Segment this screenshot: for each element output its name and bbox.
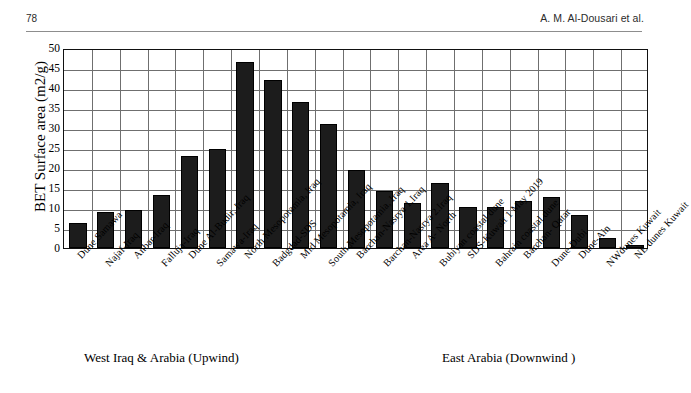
page-number: 78 [26, 13, 37, 24]
y-tick-label: 45 [49, 63, 61, 74]
group-caption-upwind: West Iraq & Arabia (Upwind) [84, 350, 239, 366]
x-axis-tick-labels: Dune SamawaNajaf-IraqAnbar-IraqFalluja-I… [63, 251, 648, 361]
running-head: A. M. Al-Dousari et al. [540, 12, 644, 24]
y-tick-label: 30 [49, 123, 61, 134]
y-tick-label: 20 [49, 163, 61, 174]
y-tick-label: 25 [49, 143, 61, 154]
y-tick-label: 40 [49, 83, 61, 94]
header-divider [26, 31, 642, 32]
y-tick-label: 10 [49, 203, 61, 214]
y-tick-label: 15 [49, 183, 61, 194]
y-tick-label: 50 [49, 43, 61, 54]
y-tick-label: 0 [54, 243, 60, 254]
y-tick-label: 35 [49, 103, 61, 114]
y-tick-label: 5 [54, 223, 60, 234]
y-axis-tick-labels: 50454035302520151050 [28, 49, 60, 249]
page-header: 78 A. M. Al-Dousari et al. [0, 0, 668, 34]
figure-bar-chart: BET Surface area (m2/g) 5045403530252015… [0, 34, 668, 393]
group-caption-downwind: East Arabia (Downwind ) [442, 350, 575, 366]
